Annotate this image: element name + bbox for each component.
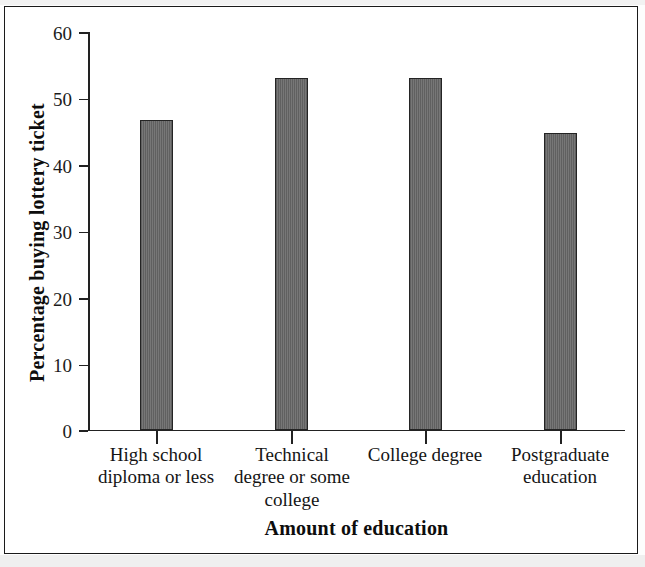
x-tick-1 — [291, 431, 293, 444]
y-tick-label-40: 40 — [53, 156, 72, 175]
y-axis-title: Percentage buying lottery ticket — [26, 43, 49, 443]
x-category-label-3: Postgraduate education — [492, 444, 628, 489]
x-category-label-0: High school diploma or less — [88, 444, 224, 489]
x-category-label-1-line-1: degree or some — [224, 466, 360, 488]
x-category-label-1-line-0: Technical — [224, 444, 360, 466]
x-category-label-2: College degree — [357, 444, 493, 466]
bar-postgraduate-education[interactable] — [544, 133, 577, 430]
x-tick-2 — [425, 431, 427, 444]
y-tick-label-0: 0 — [63, 421, 73, 440]
y-tick-40: 40 — [79, 165, 88, 167]
y-tick-label-20: 20 — [53, 289, 72, 308]
scanned-page: 60 50 40 30 20 10 0 — [0, 0, 645, 567]
y-tick-label-60: 60 — [53, 23, 72, 42]
y-tick-label-50: 50 — [53, 90, 72, 109]
y-tick-20: 20 — [79, 298, 88, 300]
x-category-label-1: Technical degree or some college — [224, 444, 360, 511]
y-tick-30: 30 — [79, 232, 88, 234]
y-tick-label-10: 10 — [53, 356, 72, 375]
x-category-label-3-line-1: education — [492, 466, 628, 488]
bar-chart: 60 50 40 30 20 10 0 — [0, 0, 645, 567]
y-tick-50: 50 — [79, 99, 88, 101]
x-category-label-0-line-1: diploma or less — [88, 466, 224, 488]
bar-technical-degree-or-some-college[interactable] — [275, 78, 308, 430]
x-tick-0 — [156, 431, 158, 444]
y-tick-10: 10 — [79, 365, 88, 367]
y-tick-60: 60 — [79, 32, 88, 34]
bar-high-school-diploma-or-less[interactable] — [140, 120, 173, 430]
x-category-label-1-line-2: college — [224, 489, 360, 511]
x-axis-title: Amount of education — [88, 517, 625, 540]
x-tick-3 — [560, 431, 562, 444]
x-category-label-0-line-0: High school — [88, 444, 224, 466]
y-tick-label-30: 30 — [53, 223, 72, 242]
x-category-label-3-line-0: Postgraduate — [492, 444, 628, 466]
x-category-label-2-line-0: College degree — [357, 444, 493, 466]
y-tick-0: 0 — [79, 430, 88, 432]
bar-college-degree[interactable] — [409, 78, 442, 430]
y-axis-line — [88, 32, 90, 431]
